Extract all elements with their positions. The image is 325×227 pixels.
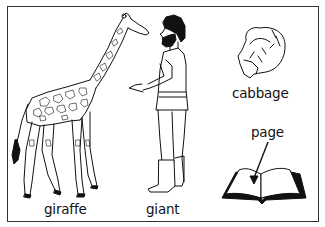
label-page: page (251, 126, 284, 140)
label-cabbage: cabbage (232, 87, 289, 101)
label-giraffe: giraffe (44, 203, 87, 217)
label-giant: giant (146, 203, 179, 217)
book-icon (0, 0, 325, 227)
